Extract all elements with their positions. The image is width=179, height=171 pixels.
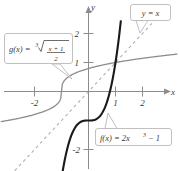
callout-identity: y = x <box>131 5 171 34</box>
x-axis <box>4 87 171 97</box>
callout-f: f(x) = 2x 3 − 1 <box>96 113 172 146</box>
y-tick-label-1: 1 <box>75 58 80 68</box>
g-numerator: x + 1 <box>48 45 64 53</box>
g-root-index: 3 <box>35 42 39 48</box>
g-denominator: 2 <box>54 55 58 63</box>
x-tick-label-1: 1 <box>113 98 118 108</box>
y-tick-label-neg2: -2 <box>73 145 81 155</box>
x-axis-label: x <box>170 87 175 97</box>
f-prefix: f(x) = 2x <box>100 133 130 143</box>
x-tick-label-neg2: -2 <box>31 98 39 108</box>
curve-g <box>1 54 178 122</box>
x-tick-label-2: 2 <box>140 98 145 108</box>
graph-figure: -2 1 2 2 1 -2 x y g(x) = 3 x + 1 2 f(x) … <box>0 0 179 171</box>
y-axis-label: y <box>90 2 95 12</box>
identity-equation: y = x <box>141 8 160 18</box>
callout-g: g(x) = 3 x + 1 2 <box>5 34 73 80</box>
f-exponent: 3 <box>142 132 146 138</box>
curve-g-plot <box>1 54 178 122</box>
g-prefix: g(x) = <box>9 44 31 54</box>
f-suffix: − 1 <box>148 133 160 143</box>
y-tick-label-2: 2 <box>75 29 80 39</box>
